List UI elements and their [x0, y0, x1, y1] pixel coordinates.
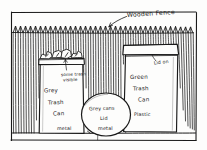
- label-grey-can-material: metal: [57, 126, 72, 131]
- grey-trash-can: [39, 58, 85, 133]
- label-green-can-line3: Can: [138, 96, 150, 102]
- green-can-lid: [123, 44, 179, 55]
- label-green-can-line1: Green: [130, 74, 148, 80]
- label-green-can-material: Plastic: [134, 112, 151, 117]
- label-some-trash-line2: visible: [63, 77, 78, 83]
- label-lid-line2: Lid: [100, 115, 108, 121]
- green-trash-can: [123, 44, 179, 132]
- label-grey-can-line2: Trash: [47, 99, 64, 106]
- label-green-can-line2: Trash: [132, 85, 149, 91]
- label-grey-can-line3: Can: [53, 110, 65, 116]
- label-lid-material: metal: [98, 125, 113, 131]
- sketch-canvas: Wooden Fence some trash visible Grey Tra…: [0, 0, 207, 150]
- sketch-svg: Wooden Fence some trash visible Grey Tra…: [0, 0, 207, 150]
